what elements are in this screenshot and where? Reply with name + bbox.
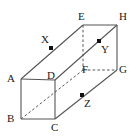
solid-edge-group	[21, 25, 117, 119]
dashed-edge-group	[21, 25, 117, 119]
vertex-label-b: B	[7, 113, 14, 124]
edge-CG	[55, 70, 117, 119]
vertex-label-h: H	[119, 11, 127, 22]
vertex-label-f: F	[82, 64, 88, 75]
marked-point-label-y: Y	[101, 44, 109, 55]
marked-point-label-x: X	[41, 34, 49, 45]
point-dot-x	[49, 46, 53, 50]
cuboid-svg	[0, 0, 138, 136]
vertex-label-d: D	[47, 70, 55, 81]
vertex-label-g: G	[119, 64, 127, 75]
marked-point-label-z: Z	[84, 98, 91, 109]
vertex-label-e: E	[78, 11, 85, 22]
geometry-figure: ABCDEFGH XYZ	[0, 0, 138, 136]
vertex-label-a: A	[7, 73, 15, 84]
vertex-label-c: C	[51, 122, 58, 133]
